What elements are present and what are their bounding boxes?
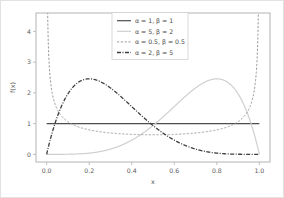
legend-label-2: α = 0.5, β = 0.5 [135,38,185,46]
curve-series-3 [47,79,260,155]
beta-distribution-figure: 0.00.20.40.60.81.001234xf(x)α = 1, β = 1… [0,0,284,198]
x-tick-label: 0.8 [212,167,222,174]
y-tick-label: 4 [27,28,31,35]
x-tick-label: 0.0 [42,167,52,174]
y-tick-label: 0 [27,151,31,158]
y-tick-label: 3 [27,58,31,65]
x-axis-title: x [151,178,155,186]
y-tick-label: 2 [27,89,31,96]
x-tick-label: 1.0 [254,167,264,174]
chart-legend: α = 1, β = 1α = 5, β = 2α = 0.5, β = 0.5… [112,13,188,60]
x-tick-label: 0.6 [169,167,179,174]
legend-label-0: α = 1, β = 1 [135,17,173,25]
x-axis: 0.00.20.40.60.81.0 [42,162,265,174]
x-tick-label: 0.4 [127,167,137,174]
legend-label-1: α = 5, β = 2 [135,28,173,36]
beta-pdf-chart: 0.00.20.40.60.81.001234xf(x)α = 1, β = 1… [0,0,284,198]
legend-label-3: α = 2, β = 5 [135,49,173,57]
y-tick-label: 1 [27,120,31,127]
y-axis-title: f(x) [9,82,17,93]
y-axis: 01234 [27,28,36,158]
curve-series-1 [47,79,260,155]
x-tick-label: 0.2 [84,167,94,174]
